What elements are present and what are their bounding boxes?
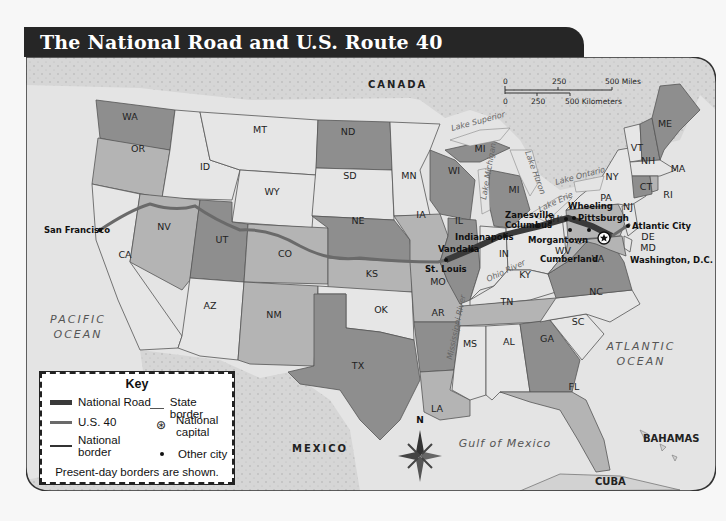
svg-text:MI: MI [509, 184, 520, 195]
svg-text:GA: GA [540, 333, 554, 344]
svg-text:NM: NM [266, 309, 281, 320]
svg-text:OR: OR [131, 143, 145, 154]
svg-text:MN: MN [401, 170, 416, 181]
svg-text:Columbus: Columbus [505, 220, 552, 230]
label-lake-superior: Lake Superior [450, 110, 506, 133]
svg-text:250: 250 [531, 97, 546, 106]
svg-text:AL: AL [503, 336, 515, 347]
national-road-swatch [50, 400, 72, 405]
svg-text:SC: SC [572, 316, 585, 327]
svg-text:St. Louis: St. Louis [425, 264, 467, 274]
svg-text:Zanesville: Zanesville [505, 210, 554, 220]
svg-text:500 Kilometers: 500 Kilometers [565, 97, 622, 106]
svg-text:AR: AR [431, 307, 444, 318]
svg-text:Morgantown: Morgantown [528, 235, 588, 245]
svg-text:Indianapolis: Indianapolis [455, 232, 514, 242]
svg-text:Vandalia: Vandalia [438, 244, 480, 254]
svg-text:IN: IN [499, 248, 509, 259]
city-labels: San Francisco St. Louis Vandalia Indiana… [44, 201, 713, 274]
key-national-border: Nationalborder [50, 434, 120, 458]
svg-text:DE: DE [641, 231, 654, 242]
svg-text:ND: ND [341, 126, 355, 137]
svg-text:MO: MO [430, 276, 446, 287]
label-mississippi-river: Mississippi River [445, 293, 468, 360]
map-key: Key National Road State border U.S. 40 ⊛… [40, 372, 234, 484]
svg-text:ID: ID [200, 161, 210, 172]
svg-text:MI: MI [475, 143, 486, 154]
svg-text:TN: TN [500, 296, 514, 307]
svg-text:Cumberland: Cumberland [540, 254, 598, 264]
svg-text:NH: NH [641, 155, 655, 166]
svg-text:0: 0 [503, 77, 508, 86]
svg-text:KS: KS [366, 268, 378, 279]
svg-text:FL: FL [569, 381, 580, 392]
national-border-swatch [50, 445, 72, 447]
svg-text:0: 0 [503, 97, 508, 106]
svg-text:VT: VT [631, 142, 643, 153]
svg-text:Washington, D.C.: Washington, D.C. [630, 255, 713, 265]
svg-text:WI: WI [448, 165, 460, 176]
svg-text:Atlantic City: Atlantic City [632, 221, 692, 231]
label-lake-ontario: Lake Ontario [554, 165, 606, 187]
svg-text:RI: RI [663, 189, 672, 200]
svg-text:IL: IL [455, 215, 464, 226]
state-border-swatch [150, 408, 164, 409]
svg-text:MA: MA [671, 163, 686, 174]
svg-text:CT: CT [640, 181, 653, 192]
svg-text:IA: IA [416, 209, 426, 220]
label-lake-huron: Lake Huron [523, 150, 547, 196]
label-cuba: CUBA [595, 476, 626, 487]
svg-text:Pittsburgh: Pittsburgh [578, 213, 629, 223]
state-labels: WA OR CA ID NV MT WY UT AZ CO NM ND SD N… [118, 111, 685, 414]
svg-text:LA: LA [431, 403, 444, 414]
svg-text:MS: MS [463, 338, 477, 349]
svg-text:MT: MT [253, 124, 267, 135]
label-mexico: MEXICO [292, 443, 348, 454]
svg-text:CO: CO [278, 248, 292, 259]
svg-text:Wheeling: Wheeling [568, 201, 613, 211]
label-pacific-2: OCEAN [53, 328, 102, 341]
label-gulf: Gulf of Mexico [459, 437, 552, 450]
label-canada: CANADA [368, 79, 427, 90]
key-national-road: National Road [50, 396, 151, 408]
svg-text:SD: SD [343, 170, 356, 181]
svg-text:UT: UT [216, 234, 229, 245]
us40-swatch [50, 421, 72, 424]
svg-text:MD: MD [640, 242, 656, 253]
svg-text:250: 250 [552, 77, 567, 86]
svg-text:WY: WY [264, 186, 279, 197]
key-national-capital: ⊛ Nationalcapital [156, 414, 218, 438]
label-atlantic-1: ATLANTIC [606, 340, 676, 353]
svg-text:NE: NE [351, 215, 364, 226]
label-bahamas: BAHAMAS [643, 433, 699, 444]
svg-text:NV: NV [157, 221, 171, 232]
svg-text:NJ: NJ [623, 201, 633, 212]
svg-text:KY: KY [519, 269, 531, 280]
svg-text:OK: OK [374, 304, 388, 315]
label-pacific-1: PACIFIC [50, 313, 106, 326]
key-title: Key [42, 377, 232, 391]
svg-text:CA: CA [118, 249, 132, 260]
svg-text:500 Miles: 500 Miles [605, 77, 641, 86]
key-other-city: Other city [160, 448, 227, 460]
compass-north-label: N [416, 415, 424, 425]
svg-text:WA: WA [122, 111, 138, 122]
label-atlantic-2: OCEAN [616, 355, 665, 368]
svg-text:San Francisco: San Francisco [44, 225, 110, 235]
city-dot-icon [160, 452, 164, 456]
svg-text:NY: NY [606, 171, 619, 182]
svg-text:NC: NC [589, 286, 603, 297]
key-note: Present-day borders are shown. [42, 466, 232, 478]
key-us40: U.S. 40 [50, 416, 116, 428]
svg-text:ME: ME [658, 118, 672, 129]
national-capital-icon: ⊛ [156, 418, 166, 432]
svg-text:TX: TX [351, 360, 365, 371]
svg-text:AZ: AZ [203, 300, 216, 311]
scale-labels: 0 250 500 Miles 0 250 500 Kilometers [503, 77, 641, 106]
